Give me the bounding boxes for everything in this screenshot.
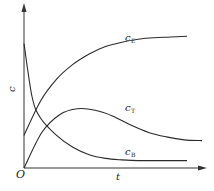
curve-cE: [24, 36, 187, 135]
label-cB: c B: [125, 146, 136, 158]
y-axis-label: c: [6, 86, 17, 92]
origin-label: O: [16, 168, 25, 181]
chart-canvas: O t c c E c T c B: [0, 0, 214, 191]
label-cT: c T: [125, 102, 135, 114]
curve-cB: [24, 44, 187, 161]
label-cE: c E: [125, 32, 135, 44]
svg-text:E: E: [131, 37, 135, 44]
y-axis-arrow-icon: [22, 3, 27, 12]
svg-text:B: B: [131, 151, 136, 158]
svg-text:T: T: [131, 107, 135, 114]
x-axis-arrow-icon: [198, 166, 207, 171]
x-axis-label: t: [116, 171, 121, 182]
